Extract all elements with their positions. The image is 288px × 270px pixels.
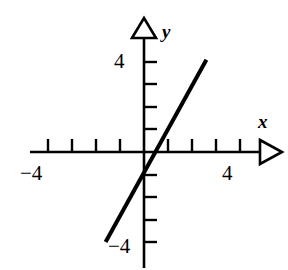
y-tick-label-positive-4: 4 <box>114 51 125 72</box>
coordinate-plane-svg <box>0 0 288 270</box>
x-axis-arrowhead <box>260 140 282 164</box>
graph-figure: y x −4 4 4 −4 <box>0 0 288 270</box>
y-tick-label-negative-4: −4 <box>108 236 130 257</box>
y-axis-label: y <box>162 22 170 41</box>
x-tick-label-negative-4: −4 <box>20 163 42 184</box>
y-axis-arrowhead <box>132 18 156 38</box>
x-tick-label-positive-4: 4 <box>222 163 233 184</box>
x-axis-label: x <box>258 112 268 131</box>
